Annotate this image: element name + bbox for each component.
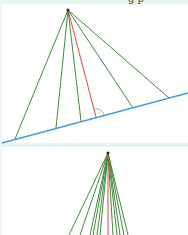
perpendicular-segment — [68, 10, 96, 117]
geometry-figure — [0, 0, 188, 235]
bottom-figure-fan-of-lines — [69, 151, 128, 235]
oblique-segment — [68, 10, 169, 98]
right-angle-dot — [99, 113, 100, 114]
oblique-segment — [56, 10, 68, 128]
apex-point — [106, 151, 109, 154]
right-angle-mark — [95, 109, 104, 115]
oblique-segment — [93, 153, 108, 235]
slanted-line — [2, 93, 188, 143]
top-figure-point-to-line — [2, 8, 188, 143]
oblique-segment — [15, 10, 68, 139]
apex-point — [66, 8, 69, 11]
